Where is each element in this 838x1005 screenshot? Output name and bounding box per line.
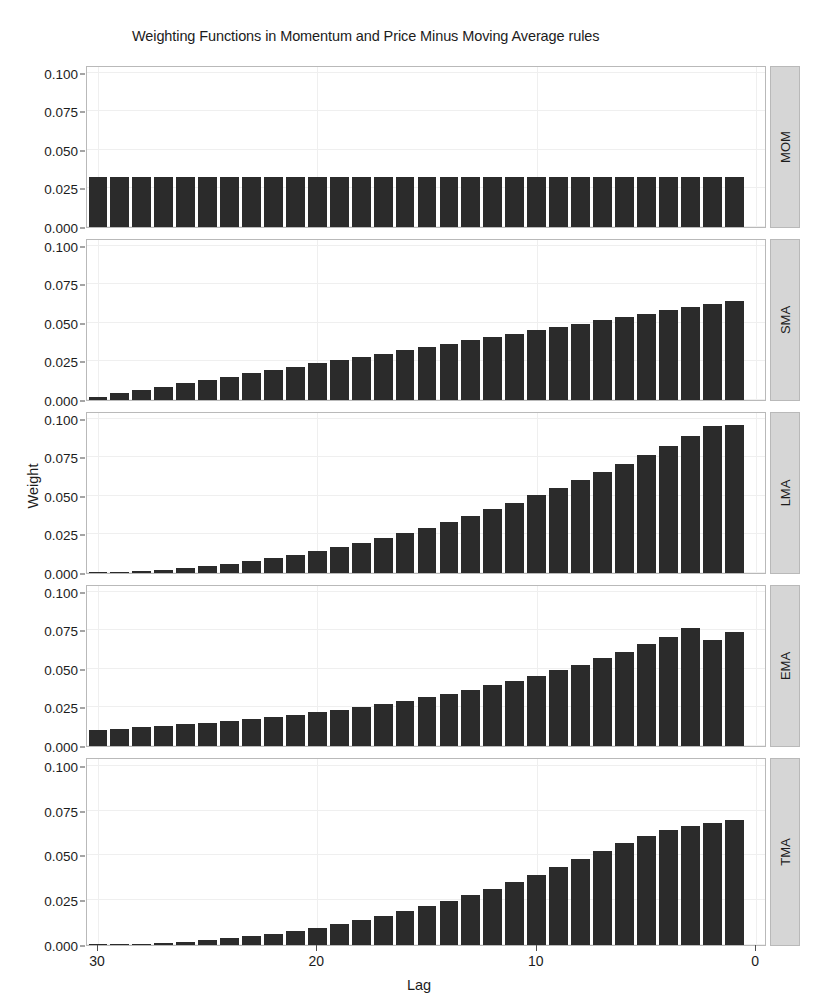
x-tick-label: 30	[77, 953, 117, 969]
bar	[418, 528, 437, 574]
x-tick-label: 20	[296, 953, 336, 969]
gridline-horizontal	[87, 283, 765, 284]
bar	[505, 882, 524, 945]
y-tick-label: 0.025	[16, 355, 78, 370]
bar	[461, 895, 480, 945]
bar	[681, 436, 700, 573]
bar	[132, 944, 151, 945]
y-tick-mark	[80, 285, 85, 286]
bar	[725, 177, 744, 227]
bar	[132, 390, 151, 400]
bar	[527, 495, 546, 573]
y-tick-mark	[80, 189, 85, 190]
y-tick-label: 0.000	[16, 740, 78, 755]
bar	[615, 464, 634, 573]
bar	[725, 820, 744, 945]
bar	[396, 701, 415, 746]
y-tick-mark	[80, 631, 85, 632]
gridline-vertical	[756, 413, 757, 573]
y-tick-label: 0.025	[16, 894, 78, 909]
bar	[110, 177, 129, 227]
bar	[374, 704, 393, 746]
y-tick-label: 0.050	[16, 662, 78, 677]
bar	[615, 652, 634, 746]
bar	[527, 177, 546, 227]
gridline-vertical	[98, 759, 99, 945]
bar	[286, 177, 305, 227]
bar	[725, 301, 744, 401]
bar	[110, 729, 129, 746]
bar	[176, 942, 195, 945]
bar	[264, 370, 283, 400]
bar	[198, 566, 217, 573]
y-tick-label: 0.000	[16, 221, 78, 236]
y-tick-mark	[80, 401, 85, 402]
bar	[681, 826, 700, 945]
bar	[527, 875, 546, 945]
bar	[154, 943, 173, 945]
bar	[593, 658, 612, 746]
y-tick-mark	[80, 323, 85, 324]
y-tick-mark	[80, 856, 85, 857]
bar	[89, 177, 108, 227]
bar	[549, 177, 568, 227]
bar	[659, 310, 678, 400]
y-tick-label: 0.000	[16, 939, 78, 954]
bar	[198, 723, 217, 746]
bar	[264, 934, 283, 945]
bar	[286, 367, 305, 400]
bar	[110, 944, 129, 945]
strip-label-text: MOM	[778, 131, 793, 163]
bar	[308, 177, 327, 227]
bar	[549, 670, 568, 746]
y-tick-mark	[80, 669, 85, 670]
gridline-vertical	[98, 413, 99, 573]
bar	[461, 690, 480, 746]
strip-label-ema: EMA	[770, 585, 800, 747]
gridline-horizontal	[87, 765, 765, 766]
bar	[615, 177, 634, 227]
y-tick-label: 0.075	[16, 804, 78, 819]
strip-label-text: SMA	[778, 306, 793, 334]
bar	[440, 344, 459, 400]
gridline-vertical	[756, 759, 757, 945]
y-tick-mark	[80, 150, 85, 151]
plot-area-ema	[86, 585, 766, 747]
y-tick-mark	[80, 228, 85, 229]
bar	[703, 304, 722, 400]
bar	[286, 715, 305, 746]
y-tick-label: 0.000	[16, 394, 78, 409]
bar	[637, 836, 656, 945]
y-tick-label: 0.100	[16, 585, 78, 600]
x-tick-mark	[316, 945, 317, 951]
y-tick-label: 0.075	[16, 278, 78, 293]
chart-title: Weighting Functions in Momentum and Pric…	[132, 28, 599, 44]
bar	[418, 697, 437, 746]
x-tick-mark	[536, 945, 537, 951]
bar	[330, 547, 349, 573]
bar	[440, 177, 459, 227]
bar	[483, 685, 502, 746]
bar	[637, 177, 656, 227]
y-tick-label: 0.000	[16, 567, 78, 582]
bar	[374, 354, 393, 400]
y-tick-mark	[80, 73, 85, 74]
bar	[593, 177, 612, 227]
gridline-horizontal	[87, 72, 765, 73]
bar	[220, 377, 239, 400]
strip-label-text: LMA	[778, 480, 793, 507]
x-tick-label: 0	[735, 953, 775, 969]
bar	[352, 707, 371, 746]
gridline-vertical	[756, 67, 757, 227]
panel-lma	[86, 412, 766, 574]
strip-label-sma: SMA	[770, 239, 800, 401]
y-tick-mark	[80, 574, 85, 575]
y-tick-mark	[80, 708, 85, 709]
bar	[703, 640, 722, 746]
gridline-vertical	[756, 240, 757, 400]
bar	[132, 177, 151, 227]
bar	[571, 324, 590, 400]
y-tick-mark	[80, 946, 85, 947]
bar	[176, 568, 195, 573]
bar	[154, 726, 173, 746]
